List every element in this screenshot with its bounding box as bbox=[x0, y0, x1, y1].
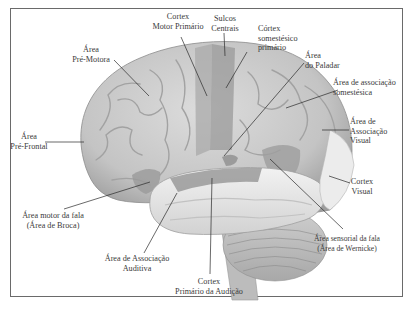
label-area-do-paladar: Área do Paladar bbox=[305, 51, 340, 70]
label-line: Visual bbox=[351, 187, 373, 197]
label-line: Pré-Motora bbox=[72, 55, 110, 65]
label-line: Área bbox=[10, 132, 47, 142]
label-line: primário bbox=[258, 43, 298, 53]
primary-somatosensory-region bbox=[210, 44, 235, 150]
label-line: Área de associação bbox=[333, 78, 396, 88]
label-line: Cortex bbox=[351, 177, 373, 187]
label-line: Cortex bbox=[175, 277, 243, 287]
label-line: Área motor da fala bbox=[22, 211, 84, 221]
label-line: Pré-Frontal bbox=[10, 142, 47, 152]
primary-motor-cortex-region bbox=[195, 44, 212, 156]
label-line: Área sensorial da fala bbox=[314, 234, 380, 244]
label-line: somestésica bbox=[333, 88, 396, 98]
label-line: Área bbox=[72, 45, 110, 55]
label-line: (Área de Broca) bbox=[22, 221, 84, 231]
label-line: Sulcos bbox=[211, 14, 238, 24]
label-area-associacao-auditiva: Área de Associação Auditiva bbox=[105, 254, 170, 273]
label-line: Área de bbox=[350, 117, 387, 127]
label-area-associacao-somestesica: Área de associação somestésica bbox=[333, 78, 396, 97]
label-sulcos-centrais: Sulcos Centrais bbox=[211, 14, 238, 33]
label-cortex-somestesico-primario: Córtex somestésico primário bbox=[258, 24, 298, 53]
label-line: Cortex bbox=[152, 12, 203, 22]
label-line: do Paladar bbox=[305, 61, 340, 71]
label-area-pre-frontal: Área Pré-Frontal bbox=[10, 132, 47, 151]
label-area-pre-motora: Área Pré-Motora bbox=[72, 45, 110, 64]
brain-illustration bbox=[0, 0, 411, 310]
label-line: Centrais bbox=[211, 24, 238, 34]
label-line: Associação bbox=[350, 127, 387, 137]
label-line: Área de Associação bbox=[105, 254, 170, 264]
label-line: Auditiva bbox=[105, 264, 170, 274]
label-line: Visual bbox=[350, 136, 387, 146]
label-line: somestésico bbox=[258, 34, 298, 44]
label-line: Córtex bbox=[258, 24, 298, 34]
label-cortex-primario-audicao: Cortex Primário da Audição bbox=[175, 277, 243, 296]
label-line: (Área de Wernicke) bbox=[314, 244, 380, 254]
label-area-sensorial-fala: Área sensorial da fala (Área de Wernicke… bbox=[314, 234, 380, 253]
label-area-associacao-visual: Área de Associação Visual bbox=[350, 117, 387, 146]
label-line: Área bbox=[305, 51, 340, 61]
label-cortex-motor-primario: Cortex Motor Primário bbox=[152, 12, 203, 31]
label-line: Primário da Audição bbox=[175, 287, 243, 297]
label-area-motor-fala: Área motor da fala (Área de Broca) bbox=[22, 211, 84, 230]
label-cortex-visual: Cortex Visual bbox=[351, 177, 373, 196]
label-line: Motor Primário bbox=[152, 22, 203, 32]
